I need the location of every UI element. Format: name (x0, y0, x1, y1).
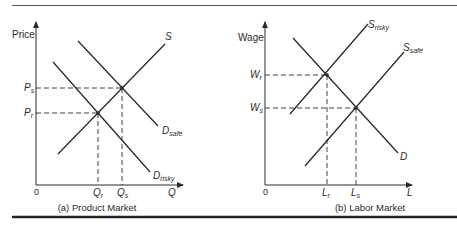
equilibrium-risky (325, 73, 329, 77)
equilibrium-risky (96, 111, 100, 115)
x-axis-label: L (407, 187, 413, 198)
supply-curve-s (58, 44, 165, 154)
curve-label-s-risky: Srisky (368, 19, 390, 32)
tick-ws: Ws (250, 102, 263, 114)
tick-qr: Qr (93, 187, 104, 199)
demand-curve-safe (78, 41, 158, 126)
y-axis-label: Price (12, 29, 35, 40)
tick-ls: Ls (351, 187, 361, 199)
tick-pr: Pr (24, 107, 34, 119)
caption-labor-market: (b) Labor Market (335, 202, 406, 213)
origin-label: 0 (34, 187, 39, 197)
tick-qs: Qs (117, 187, 129, 199)
curve-label-d-safe: Dsafe (162, 125, 183, 137)
panel-labor-market: Wage 0 L Wr Ws Lr Ls Srisky Ssafe D (b) … (238, 19, 423, 213)
curve-label-d-risky: Drisky (153, 170, 175, 183)
tick-wr: Wr (250, 69, 262, 81)
demand-curve-risky (53, 62, 150, 172)
x-axis-label: Q (168, 187, 176, 198)
curve-label-s: S (165, 31, 172, 42)
curve-label-s-safe: Ssafe (403, 42, 423, 54)
demand-curve-d (293, 38, 398, 153)
equilibrium-safe (354, 106, 358, 110)
curve-label-d: D (400, 151, 407, 162)
tick-ps: Ps (24, 82, 35, 94)
caption-product-market: (a) Product Market (58, 202, 137, 213)
origin-label: 0 (263, 187, 268, 197)
supply-curve-risky (290, 24, 368, 114)
tick-lr: Lr (322, 187, 331, 199)
diagram-canvas: Price 0 Q Ps Pr Qr Qs S Dsafe Drisky (a)… (0, 0, 457, 230)
supply-curve-safe (305, 52, 404, 166)
equilibrium-safe (120, 86, 124, 90)
y-axis-label: Wage (238, 32, 264, 43)
panel-product-market: Price 0 Q Ps Pr Qr Qs S Dsafe Drisky (a)… (12, 22, 183, 213)
